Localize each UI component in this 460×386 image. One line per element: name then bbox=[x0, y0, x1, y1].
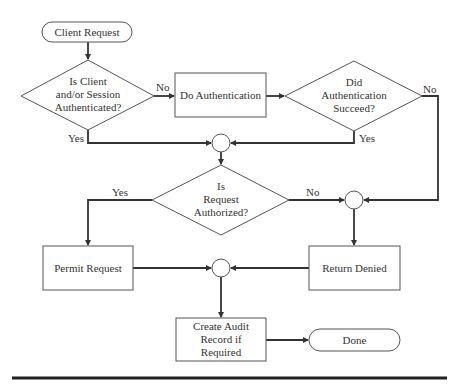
node-do-authentication: Do Authentication bbox=[175, 73, 266, 117]
connector-circle-3 bbox=[212, 259, 230, 277]
edge-label-authenticated-yes: Yes bbox=[68, 132, 84, 144]
edge-label-succeed-no: No bbox=[423, 83, 437, 95]
process-line: Required bbox=[201, 346, 242, 358]
decision-line: Request bbox=[203, 193, 238, 205]
node-return-denied: Return Denied bbox=[309, 246, 400, 290]
node-do-authentication-label: Do Authentication bbox=[180, 89, 261, 101]
node-client-request: Client Request bbox=[42, 22, 132, 42]
edge-authenticated-yes bbox=[88, 130, 211, 143]
node-permit-request: Permit Request bbox=[43, 246, 133, 290]
decision-line: Is Client bbox=[69, 75, 107, 87]
node-done-label: Done bbox=[343, 334, 367, 346]
connector-circle-1 bbox=[212, 134, 230, 152]
flowchart-canvas: Client Request Is Client and/or Session … bbox=[0, 0, 460, 386]
node-client-request-label: Client Request bbox=[54, 26, 119, 38]
edge-label-authenticated-no: No bbox=[156, 81, 170, 93]
node-is-authorized-decision: Is Request Authorized? bbox=[152, 165, 289, 235]
node-create-audit-record: Create Audit Record if Required bbox=[176, 318, 266, 361]
decision-line: Authorized? bbox=[194, 206, 248, 218]
edge-label-authorized-yes: Yes bbox=[112, 186, 128, 198]
decision-line: Did bbox=[346, 76, 363, 88]
node-auth-succeed-decision: Did Authentication Succeed? bbox=[285, 61, 422, 131]
edge-label-authorized-no: No bbox=[306, 186, 320, 198]
edge-authorized-yes bbox=[88, 200, 152, 245]
decision-line: Authentication bbox=[321, 89, 387, 101]
connector-circle-2 bbox=[345, 191, 363, 209]
node-return-denied-label: Return Denied bbox=[322, 262, 387, 274]
decision-line: Authenticated? bbox=[55, 101, 122, 113]
node-is-authenticated-decision: Is Client and/or Session Authenticated? bbox=[21, 60, 154, 130]
decision-line: Succeed? bbox=[333, 102, 375, 114]
edge-succeed-yes bbox=[231, 131, 354, 143]
decision-line: Is bbox=[217, 180, 225, 192]
node-done: Done bbox=[309, 329, 400, 351]
edge-label-succeed-yes: Yes bbox=[359, 132, 375, 144]
process-line: Create Audit bbox=[193, 320, 249, 332]
decision-line: and/or Session bbox=[56, 88, 121, 100]
process-line: Record if bbox=[200, 333, 242, 345]
node-permit-request-label: Permit Request bbox=[54, 262, 122, 274]
